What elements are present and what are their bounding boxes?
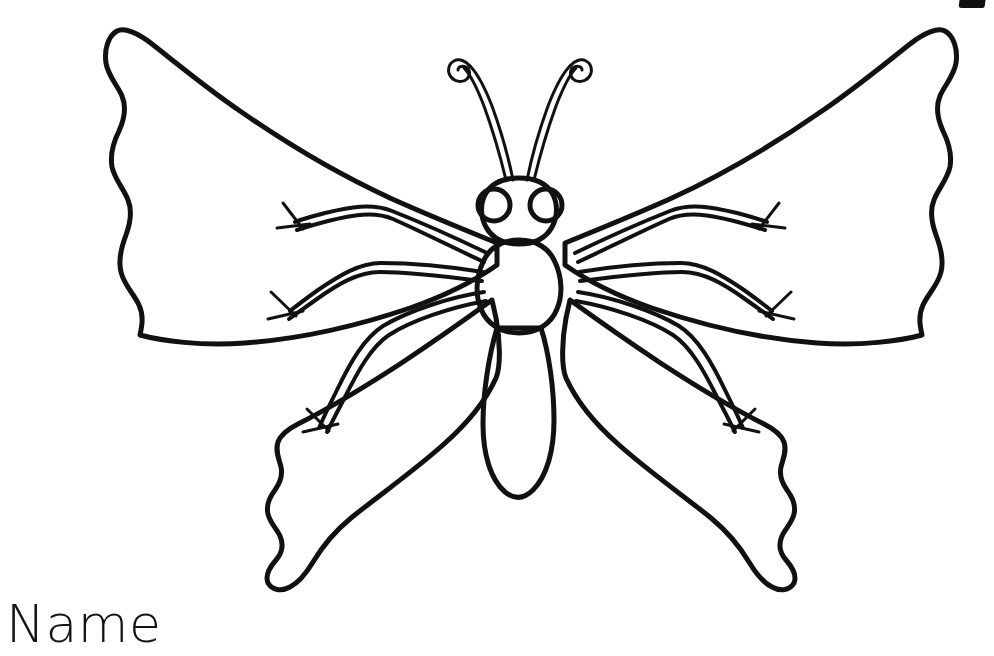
cropped-mark [958, 0, 985, 8]
name-field-label: Name [6, 598, 161, 650]
coloring-page: Name [0, 0, 994, 656]
butterfly-line-art [0, 0, 994, 656]
